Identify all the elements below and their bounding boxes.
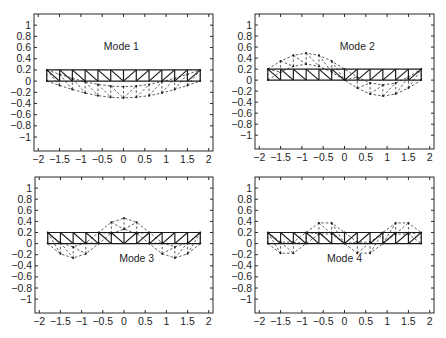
node-marker	[199, 232, 201, 234]
node-marker	[161, 81, 163, 83]
x-tick-label: 2	[427, 151, 433, 163]
x-tick-label: 1.5	[401, 151, 416, 163]
panel-1: −2−1.5−1−0.500.511.5210.80.60.40.20−0.2−…	[10, 14, 213, 165]
node-marker	[280, 60, 282, 62]
node-marker	[420, 243, 422, 245]
node-marker	[292, 65, 294, 67]
node-marker	[110, 221, 112, 223]
node-marker	[382, 243, 384, 245]
node-marker	[174, 246, 176, 248]
node-marker	[420, 232, 422, 234]
x-tick-label: −1.5	[270, 151, 291, 163]
node-marker	[84, 81, 86, 83]
node-marker	[199, 80, 201, 82]
chart-canvas: −2−1.5−1−0.500.511.5210.80.60.40.20−0.2−…	[0, 0, 446, 338]
node-marker	[186, 84, 188, 86]
node-marker	[186, 73, 188, 75]
node-marker	[59, 73, 61, 75]
node-marker	[318, 54, 320, 56]
node-marker	[395, 82, 397, 84]
node-marker	[85, 242, 87, 244]
node-marker	[267, 243, 269, 245]
node-marker	[199, 243, 201, 245]
axes-box	[34, 14, 213, 151]
node-marker	[395, 222, 397, 224]
mode-label: Mode 1	[104, 40, 139, 52]
node-marker	[148, 83, 150, 85]
node-marker	[135, 85, 137, 87]
node-marker	[72, 257, 74, 259]
node-marker	[46, 80, 48, 82]
node-marker	[98, 243, 100, 245]
node-marker	[356, 76, 358, 78]
x-tick-label: 0	[121, 153, 127, 165]
node-marker	[135, 96, 137, 98]
undeformed-truss	[47, 70, 200, 81]
node-marker	[395, 233, 397, 235]
node-marker	[369, 93, 371, 95]
node-marker	[174, 257, 176, 259]
node-marker	[59, 84, 61, 86]
x-tick-label: 0	[121, 315, 127, 327]
x-tick-label: −1	[296, 315, 308, 327]
node-marker	[382, 84, 384, 86]
x-tick-label: 1	[163, 153, 169, 165]
node-marker	[47, 243, 49, 245]
node-marker	[72, 246, 74, 248]
x-tick-label: 2	[206, 153, 212, 165]
undeformed-truss	[268, 69, 421, 80]
node-marker	[344, 79, 346, 81]
node-marker	[331, 233, 333, 235]
node-marker	[136, 221, 138, 223]
node-marker	[331, 71, 333, 73]
node-marker	[305, 52, 307, 54]
x-tick-label: −0.5	[92, 315, 113, 327]
node-marker	[318, 222, 320, 224]
node-marker	[382, 95, 384, 97]
node-marker	[174, 88, 176, 90]
node-marker	[187, 253, 189, 255]
x-tick-label: 1.5	[401, 315, 416, 327]
node-marker	[407, 87, 409, 89]
x-tick-label: 2	[206, 315, 212, 327]
node-marker	[98, 232, 100, 234]
node-marker	[148, 243, 150, 245]
node-marker	[407, 233, 409, 235]
x-tick-label: −1.5	[50, 315, 71, 327]
node-marker	[305, 63, 307, 65]
node-marker	[292, 252, 294, 254]
x-tick-label: −0.5	[313, 315, 334, 327]
node-marker	[369, 82, 371, 84]
node-marker	[331, 60, 333, 62]
x-tick-label: −2	[33, 315, 45, 327]
node-marker	[199, 69, 201, 71]
node-marker	[369, 241, 371, 243]
node-marker	[110, 85, 112, 87]
node-marker	[97, 95, 99, 97]
node-marker	[187, 242, 189, 244]
node-marker	[47, 232, 49, 234]
node-marker	[420, 79, 422, 81]
x-tick-label: −1	[296, 151, 308, 163]
node-marker	[123, 86, 125, 88]
axes-box	[255, 14, 434, 149]
x-tick-label: −2	[253, 151, 265, 163]
node-marker	[395, 93, 397, 95]
node-marker	[280, 252, 282, 254]
node-marker	[110, 232, 112, 234]
x-tick-label: −1.5	[270, 315, 291, 327]
x-tick-label: −1	[76, 315, 88, 327]
node-marker	[97, 83, 99, 85]
node-marker	[123, 228, 125, 230]
node-marker	[174, 77, 176, 79]
undeformed-truss	[268, 233, 421, 244]
y-tick-label: −1	[19, 131, 31, 143]
x-tick-label: −0.5	[92, 153, 113, 165]
x-tick-label: 0	[342, 315, 348, 327]
node-marker	[356, 87, 358, 89]
node-marker	[331, 222, 333, 224]
panel-2: −2−1.5−1−0.500.511.5210.80.60.40.20−0.2−…	[231, 14, 434, 163]
mode-label: Mode 2	[340, 40, 375, 52]
node-marker	[161, 253, 163, 255]
x-tick-label: 1	[384, 315, 390, 327]
